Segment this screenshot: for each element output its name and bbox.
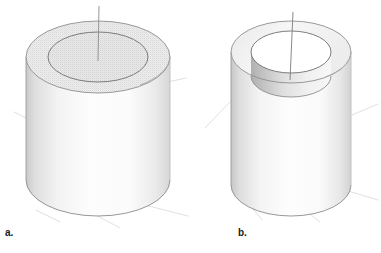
figure-a-solid-cylinder [14,6,188,228]
figure-label-a: a. [5,228,13,238]
figure-b-hollow-cylinder [205,12,378,222]
figure-label-b: b. [238,228,247,238]
figure-canvas: a. b. [0,0,381,253]
cylinder-illustrations-svg [0,0,381,253]
